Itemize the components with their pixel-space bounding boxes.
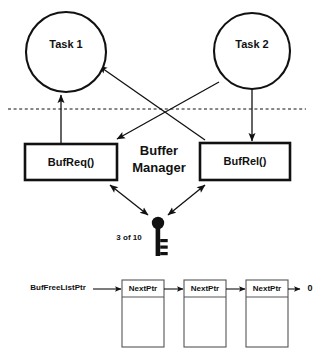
buffer-manager-diagram: Task 1 Task 2 BufReq() BufRel() Buffer M… — [0, 0, 320, 362]
semaphore-count-label: 3 of 10 — [116, 233, 142, 242]
connector-task2-to-bufreq — [117, 82, 219, 139]
bufreq-label: BufReq() — [48, 156, 95, 168]
free-list-node-field: NextPtr — [129, 284, 157, 293]
key-icon — [152, 217, 168, 256]
diagram-canvas: Task 1 Task 2 BufReq() BufRel() Buffer M… — [0, 0, 320, 362]
free-list-node-field: NextPtr — [191, 284, 219, 293]
free-list-node[interactable]: NextPtr — [184, 280, 226, 347]
connector-bufrel-semaphore — [168, 185, 205, 215]
task-1-label: Task 1 — [49, 38, 82, 50]
free-list-node[interactable]: NextPtr — [122, 280, 164, 347]
free-list-node-field: NextPtr — [253, 284, 281, 293]
bufrel-label: BufRel() — [224, 155, 267, 167]
free-list-node[interactable]: NextPtr — [246, 280, 288, 347]
buffer-manager-title-line2: Manager — [132, 160, 185, 175]
buffer-manager-title-line1: Buffer — [140, 143, 178, 158]
buffreelistptr-label: BufFreeListPtr — [30, 283, 86, 292]
connector-bufreq-semaphore — [110, 185, 148, 215]
task-2-label: Task 2 — [235, 38, 268, 50]
task-2-node[interactable] — [214, 13, 290, 89]
free-list-terminator-label: 0 — [307, 283, 312, 293]
task-1-node[interactable] — [26, 12, 106, 92]
connector-bufrel-to-task1 — [99, 66, 205, 140]
